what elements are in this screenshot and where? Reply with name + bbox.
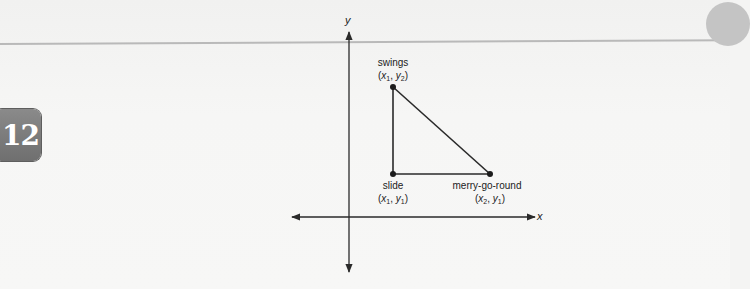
point-swings <box>390 84 396 90</box>
coord-sub-y: 1 <box>498 198 502 205</box>
coord-sub-x: 2 <box>483 198 487 205</box>
coord-sub-y: 2 <box>401 75 405 82</box>
label-swings: swings <box>378 57 409 68</box>
coord-merry-go-round: (x2, y1) <box>475 193 505 205</box>
x-axis-label: x <box>537 210 543 222</box>
coord-sub-x: 1 <box>386 198 390 205</box>
segment-swings-merry-go-round <box>393 87 490 174</box>
point-slide <box>390 171 396 177</box>
coord-slide: (x1, y1) <box>378 193 408 205</box>
label-slide: slide <box>383 180 404 191</box>
label-merry-go-round: merry-go-round <box>453 180 522 191</box>
coord-swings: (x1, y2) <box>378 70 408 82</box>
coord-sub-x: 1 <box>386 75 390 82</box>
point-merry-go-round <box>487 171 493 177</box>
y-axis-label: y <box>345 14 351 26</box>
coord-sub-y: 1 <box>401 198 405 205</box>
